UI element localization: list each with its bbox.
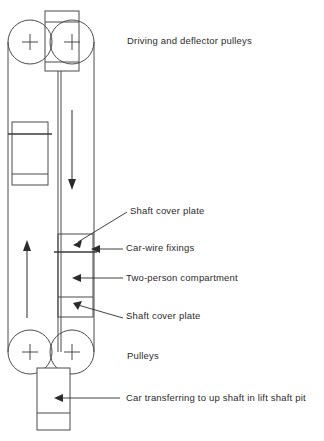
label-car-transferring-to-up-shaft: Car transferring to up shaft in lift sha… (126, 392, 306, 403)
top-pulley-group (8, 11, 94, 71)
car-compartment-upper-left (8, 122, 52, 185)
bottom-pulley-group (8, 330, 94, 374)
upper-car-body (12, 122, 48, 185)
diagram-page: Driving and deflector pulleys Shaft cove… (0, 0, 324, 441)
label-two-person-compartment: Two-person compartment (126, 272, 238, 283)
car-compartment-bottom (37, 368, 70, 430)
leader-shaft-cover-plate-top (78, 212, 127, 242)
up-arrow-head (23, 240, 31, 251)
label-shaft-cover-plate-top: Shaft cover plate (130, 205, 205, 216)
down-arrow-head (68, 179, 76, 190)
leader-arrowhead-shaft-cover-plate-top (73, 240, 82, 248)
descending-direction-arrow (68, 110, 76, 190)
label-pulleys: Pulleys (127, 350, 159, 361)
bottom-car-body (37, 368, 70, 430)
label-shaft-cover-plate-bottom: Shaft cover plate (126, 310, 201, 321)
leader-shaft-cover-plate-bottom (78, 305, 123, 318)
lift-shaft-diagram (0, 0, 324, 441)
label-car-wire-fixings: Car-wire fixings (126, 242, 195, 253)
leader-arrowhead-two-person-compartment (72, 274, 81, 282)
label-driving-and-deflector-pulleys: Driving and deflector pulleys (127, 35, 252, 46)
ascending-direction-arrow (23, 240, 31, 318)
